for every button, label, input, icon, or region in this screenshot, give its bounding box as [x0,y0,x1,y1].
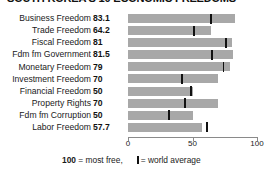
bar-row: Financial Freedom 50 [0,86,278,98]
row-label: Labor Freedom [32,122,91,133]
bar [128,87,193,96]
world-average-tick [168,110,170,120]
row-label: Business Freedom [19,13,91,24]
bar [128,50,233,59]
footnote-most-free-number: 100 [62,155,76,165]
bar [128,123,202,132]
bar [128,14,235,23]
chart-footnote: 100 = most free, = world average [0,155,278,169]
bar-row: Monetary Freedom 79 [0,61,278,73]
chart-container: SOUTH KOREA'S 10 ECONOMIC FREEDOMS Busin… [0,0,278,175]
x-axis-label: 50 [188,139,197,148]
world-average-tick [184,98,186,108]
world-average-tick-swatch [137,156,139,165]
row-label: Investment Freedom [12,74,91,85]
x-axis-label: 0 [126,139,130,148]
row-label: Trade Freedom [32,25,91,36]
row-value: 70 [93,98,121,109]
bar [128,38,232,47]
bar [128,74,218,83]
bar-track [128,62,257,71]
legend-world-average: = world average [137,155,201,165]
bar-track [128,14,257,23]
bar-track [128,26,257,35]
bar-track [128,123,257,132]
row-value: 81 [93,37,121,48]
row-label: Financial Freedom [20,86,91,97]
row-label: Property Rights [32,98,91,109]
bar-track [128,50,257,59]
world-average-tick [206,122,208,132]
world-average-tick [223,62,225,72]
bar-track [128,74,257,83]
row-value: 79 [93,62,121,73]
world-average-tick [211,50,213,60]
bar [128,99,218,108]
bar-track [128,38,257,47]
row-value: 50 [93,110,121,121]
bar-row: Labor Freedom 57.7 [0,122,278,134]
bar-row: Investment Freedom 70 [0,73,278,85]
bar-track [128,87,257,96]
bar [128,62,230,71]
row-value: 64.2 [93,25,121,36]
bar-row: Business Freedom 83.1 [0,13,278,25]
bar-row: Trade Freedom 64.2 [0,25,278,37]
bar-row: Fiscal Freedom 81 [0,37,278,49]
world-average-tick [181,74,183,84]
footnote-most-free-text: = most free, [76,155,123,165]
bar-track [128,111,257,120]
x-axis-label: 100 [250,139,263,148]
row-label: Fdm fm Corruption [19,110,91,121]
legend-world-average-label: = world average [141,155,201,165]
bar-track [128,99,257,108]
chart-title: SOUTH KOREA'S 10 ECONOMIC FREEDOMS [7,0,275,2]
bar-rows: Business Freedom 83.1 Trade Freedom 64.2… [0,13,278,134]
bar [128,26,211,35]
world-average-tick [193,26,195,36]
row-label: Fdm fm Government [12,49,91,60]
row-value: 81.5 [93,49,121,60]
footnote-most-free: 100 = most free, [62,155,123,165]
world-average-tick [190,86,192,96]
world-average-tick [225,38,227,48]
row-value: 70 [93,74,121,85]
row-value: 57.7 [93,122,121,133]
bar-row: Fdm fm Government 81.5 [0,49,278,61]
row-value: 83.1 [93,13,121,24]
row-value: 50 [93,86,121,97]
row-label: Monetary Freedom [18,62,91,73]
bar-row: Fdm fm Corruption 50 [0,110,278,122]
x-axis-line [128,137,257,138]
bar-row: Property Rights 70 [0,98,278,110]
row-label: Fiscal Freedom [32,37,91,48]
world-average-tick [210,14,212,24]
bar [128,111,193,120]
